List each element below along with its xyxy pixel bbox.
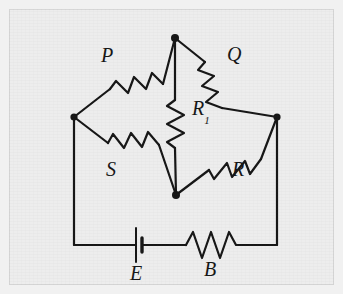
- circuit-drawing: [0, 0, 343, 294]
- label-P: P: [101, 45, 113, 65]
- resistor-Q: [175, 38, 277, 121]
- label-E: E: [130, 263, 142, 283]
- label-B: B: [204, 259, 216, 279]
- label-R1-subscript: 1: [204, 114, 210, 126]
- resistor-B: [186, 232, 238, 258]
- label-R1-base: R: [192, 97, 204, 119]
- battery-E: [136, 228, 142, 262]
- resistor-S: [74, 117, 176, 195]
- label-R1: R1: [192, 98, 210, 122]
- node-right-dot: [273, 113, 280, 120]
- resistor-P: [74, 38, 175, 117]
- label-Q: Q: [227, 44, 241, 64]
- node-bottom-dot: [172, 191, 180, 199]
- resistor-R: [176, 117, 277, 195]
- circuit-figure: P Q S R R1 E B: [0, 0, 343, 294]
- node-left-dot: [70, 113, 77, 120]
- node-top-dot: [171, 34, 179, 42]
- label-R: R: [232, 159, 244, 179]
- label-S: S: [106, 159, 116, 179]
